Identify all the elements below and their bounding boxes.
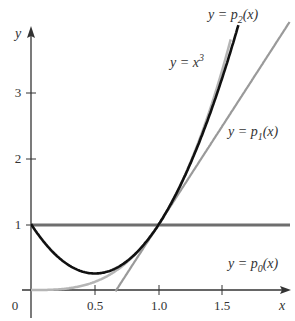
y-tick-3: 3 (15, 85, 22, 100)
x-tick-0: 0 (12, 298, 19, 313)
x-axis-label: x (278, 298, 286, 313)
y-tick-2: 2 (15, 151, 22, 166)
x-tick-0.5: 0.5 (87, 298, 103, 313)
label-p1: y = p1(x) (226, 124, 279, 142)
chart: 0 0.5 1.0 1.5 1 2 3 x y y = p0(x) y = p1… (0, 0, 295, 321)
label-p0: y = p0(x) (226, 256, 279, 274)
x-tick-1.5: 1.5 (214, 298, 230, 313)
series-cube (31, 39, 231, 290)
x-tick-1.0: 1.0 (151, 298, 167, 313)
axes (22, 26, 291, 318)
y-axis-label: y (13, 26, 22, 41)
label-cube: y = x3 (168, 52, 204, 70)
y-tick-1: 1 (15, 217, 22, 232)
label-p2: y = p2(x) (206, 7, 259, 25)
